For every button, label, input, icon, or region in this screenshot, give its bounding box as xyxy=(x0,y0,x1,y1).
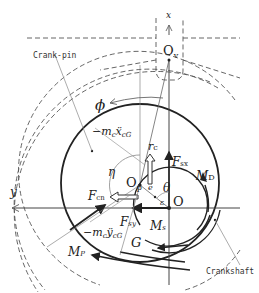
op-label: Op xyxy=(126,175,142,192)
inertia-y-label: −mcÿcG xyxy=(83,226,123,240)
y-axis-label: y xyxy=(9,185,17,199)
fsx-label: Fsx xyxy=(171,155,188,169)
o-label: O xyxy=(173,194,184,209)
epsilon-label: ε xyxy=(160,198,164,207)
rc-label: rc xyxy=(148,140,158,153)
theta-label: θ xyxy=(163,181,171,195)
eta-label: η xyxy=(108,165,116,179)
fcn-label: Fcn xyxy=(87,189,105,203)
phi-label: ϕ xyxy=(95,96,105,114)
crank-pin-label: Crank-pin xyxy=(33,51,77,60)
ov-label: Ov xyxy=(163,43,179,60)
crankshaft-leader xyxy=(215,220,240,265)
fsy-label: Fsy xyxy=(119,215,137,229)
rc-line xyxy=(140,60,169,185)
phi-arrow xyxy=(110,97,163,103)
md-label: MD xyxy=(195,169,215,183)
e-label: e xyxy=(148,183,153,192)
crank-pin-leader xyxy=(55,55,92,151)
crank-diagram: Ov x y Crank-pin Crankshaft ϕ η θ e ε rc… xyxy=(0,0,259,293)
x-axis-label: x xyxy=(166,10,171,20)
g-label: G xyxy=(131,235,141,250)
guide-dashed-lines xyxy=(27,18,240,80)
mp-label: MP xyxy=(67,245,85,259)
crankshaft-label: Crankshaft xyxy=(206,267,254,276)
ms-label: Ms xyxy=(149,219,166,233)
inertia-x-label: −mcẍcG xyxy=(92,125,132,139)
